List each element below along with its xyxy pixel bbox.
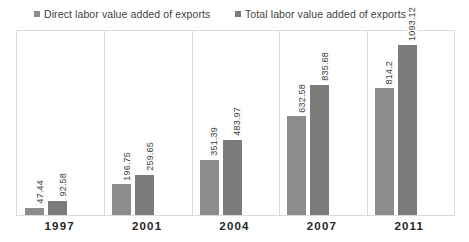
- bar-direct[interactable]: 47.44: [25, 208, 44, 215]
- bar-label-total: 1093.12: [407, 5, 418, 43]
- bar-group: 632.58835.68: [279, 31, 366, 215]
- category-label-2001: 2001: [103, 218, 190, 234]
- bar-label-direct: 47.44: [35, 178, 46, 206]
- bar-direct[interactable]: 632.58: [287, 116, 306, 215]
- legend-item-direct[interactable]: Direct labor value added of exports: [34, 6, 210, 22]
- bar-label-total: 92.58: [58, 171, 69, 199]
- square-marker-icon: [34, 11, 40, 17]
- category-label-2007: 2007: [278, 218, 365, 234]
- category-axis: 19972001200420072011: [16, 218, 455, 240]
- bar-label-total: 835.68: [320, 50, 331, 83]
- bar-total[interactable]: 259.65: [135, 175, 154, 215]
- bar-group: 814.21093.12: [367, 31, 454, 215]
- bar-group: 351.39483.97: [192, 31, 279, 215]
- category-label-2004: 2004: [191, 218, 278, 234]
- bar-direct[interactable]: 351.39: [200, 160, 219, 215]
- bar-group: 196.75259.65: [104, 31, 191, 215]
- bar-direct[interactable]: 814.2: [375, 88, 394, 215]
- bar-total[interactable]: 92.58: [48, 201, 67, 215]
- legend-item-total[interactable]: Total labor value added of exports: [235, 6, 406, 22]
- bar-label-direct: 196.75: [122, 150, 133, 183]
- legend-label-total: Total labor value added of exports: [245, 8, 406, 20]
- bar-total[interactable]: 483.97: [223, 140, 242, 215]
- bar-label-total: 259.65: [145, 140, 156, 173]
- bar-total[interactable]: 1093.12: [398, 45, 417, 215]
- bar-group: 47.4492.58: [17, 31, 104, 215]
- bar-total[interactable]: 835.68: [310, 85, 329, 215]
- legend-label-direct: Direct labor value added of exports: [44, 8, 210, 20]
- bar-label-total: 483.97: [232, 105, 243, 138]
- bar-chart: Direct labor value added of exports Tota…: [0, 0, 469, 242]
- bar-label-direct: 351.39: [209, 125, 220, 158]
- category-label-1997: 1997: [16, 218, 103, 234]
- plot-area: 47.4492.58196.75259.65351.39483.97632.58…: [16, 30, 455, 216]
- category-label-2011: 2011: [366, 218, 453, 234]
- bar-label-direct: 814.2: [384, 59, 395, 87]
- chart-legend: Direct labor value added of exports Tota…: [0, 6, 469, 22]
- bar-label-direct: 632.58: [297, 82, 308, 115]
- square-marker-icon: [235, 11, 241, 17]
- bar-direct[interactable]: 196.75: [112, 184, 131, 215]
